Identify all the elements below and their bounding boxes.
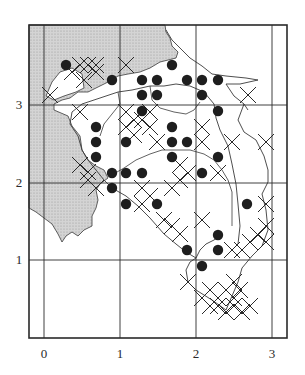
dot-marker [107,75,117,85]
cross-marker [172,172,188,188]
y-tick-label-3: 3 [16,97,23,113]
cross-marker [180,165,196,181]
dot-marker [61,60,71,70]
dot-marker [197,75,207,85]
cross-marker [218,304,234,320]
dot-marker [242,199,252,209]
cross-marker [202,298,218,314]
dot-marker [197,168,207,178]
dot-marker [182,137,192,147]
dot-marker [137,90,147,100]
dot-marker [213,245,223,255]
dot-marker [91,152,101,162]
dot-marker [152,199,162,209]
cross-marker [234,242,250,258]
dot-marker [137,106,147,116]
dot-marker [213,230,223,240]
dot-marker [152,75,162,85]
cross-marker [226,274,242,290]
cross-marker [72,104,88,120]
y-tick-label-2: 2 [16,175,23,191]
dot-marker [167,122,177,132]
dot-marker [121,168,131,178]
dot-marker [91,137,101,147]
x-tick-label-3: 3 [269,346,276,362]
dot-marker [197,90,207,100]
cross-marker [224,242,240,258]
cross-marker [180,274,196,290]
cross-marker [210,298,226,314]
dot-marker [107,168,117,178]
distribution-map [0,0,305,375]
dot-marker [121,137,131,147]
dot-marker [182,245,192,255]
dot-marker [107,183,117,193]
dot-marker [213,152,223,162]
x-tick-label-0: 0 [41,346,48,362]
cross-marker [242,298,258,314]
dot-marker [167,60,177,70]
x-tick-label-1: 1 [117,346,124,362]
cross-marker [226,298,242,314]
dot-marker [182,75,192,85]
x-tick-label-2: 2 [193,346,200,362]
cross-marker [142,119,158,135]
cross-marker [156,212,172,228]
dot-marker [167,152,177,162]
cross-marker [149,134,165,150]
dot-marker [213,106,223,116]
cross-marker [172,226,188,242]
dot-marker [167,137,177,147]
dot-marker [197,261,207,271]
cross-marker [240,87,256,103]
dot-marker [137,75,147,85]
dot-marker [213,75,223,85]
dot-marker [91,122,101,132]
dot-marker [137,168,147,178]
dot-marker [152,90,162,100]
cross-marker [250,227,266,243]
cross-marker [234,304,250,320]
y-tick-label-1: 1 [16,252,23,268]
dot-marker [121,199,131,209]
